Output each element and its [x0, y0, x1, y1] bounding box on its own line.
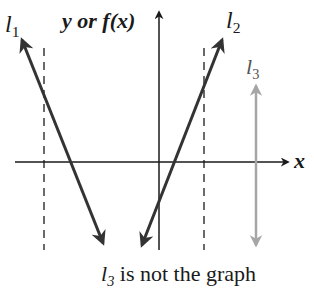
line-l1: [22, 40, 103, 243]
x-axis-label: x: [294, 150, 305, 172]
caption: l3 is not the graph: [101, 263, 256, 288]
label-l3: l3: [246, 56, 259, 81]
label-l1: l1: [5, 12, 19, 40]
label-l2: l2: [226, 8, 240, 36]
line-l2: [142, 40, 222, 245]
y-axis-label: y or f(x): [62, 10, 135, 32]
